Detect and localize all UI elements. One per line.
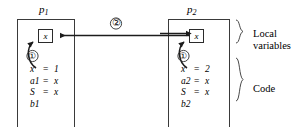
- process-label-p2-subscript: 2: [193, 8, 197, 17]
- code-line-p2-2: S: [181, 87, 191, 99]
- section-label-code-line1: Code: [253, 83, 275, 95]
- step-marker-p2: ①: [179, 52, 187, 61]
- code-ops-p1: = = =: [43, 64, 48, 99]
- code-op-p2-3: =: [194, 87, 199, 99]
- section-label-local-variables: Local variables: [253, 28, 291, 52]
- code-op-p1-1: =: [43, 76, 48, 88]
- section-label-local-variables-line2: variables: [253, 40, 291, 52]
- brace-code: [236, 58, 243, 101]
- code-rhs-p2: 2 x x: [205, 64, 210, 99]
- code-rhs-p1-3: x: [54, 87, 59, 99]
- code-line-p1-1: a1: [30, 76, 40, 88]
- code-op-p1-3: =: [43, 87, 48, 99]
- process-label-p1: p1: [39, 4, 49, 17]
- code-line-p1-2: S: [30, 87, 40, 99]
- x-box-p2-label: x: [195, 32, 199, 41]
- section-label-local-variables-line1: Local: [253, 28, 291, 40]
- x-box-p2: x: [189, 29, 204, 43]
- code-block-p2: x a2 S b2: [181, 64, 191, 110]
- x-box-p1-label: x: [44, 32, 48, 41]
- x-box-p1: x: [38, 29, 53, 43]
- code-line-p1-3: b1: [30, 99, 40, 111]
- code-rhs-p1-1: x: [54, 76, 59, 88]
- code-op-p2-0: =: [194, 64, 199, 76]
- step-marker-transfer: ②: [112, 19, 121, 29]
- code-rhs-p1: 1 x x: [54, 64, 59, 99]
- diagram-canvas: p1 p2 x x ① ① ② x a1 S b1 = = = 1 x x x …: [0, 0, 302, 127]
- process-label-p1-subscript: 1: [45, 8, 49, 17]
- code-rhs-p2-3: x: [205, 87, 210, 99]
- step-marker-p1: ①: [28, 52, 36, 61]
- section-label-code: Code: [253, 83, 275, 95]
- code-rhs-p2-0: 2: [205, 64, 210, 76]
- brace-local-variables: [236, 20, 243, 43]
- code-rhs-p2-1: x: [205, 76, 210, 88]
- code-op-p1-0: =: [43, 64, 48, 76]
- process-label-p2: p2: [187, 4, 197, 17]
- code-line-p2-1: a2: [181, 76, 191, 88]
- code-rhs-p1-0: 1: [54, 64, 59, 76]
- code-line-p2-3: b2: [181, 99, 191, 111]
- code-line-p1-0: x: [30, 64, 40, 76]
- code-block-p1: x a1 S b1: [30, 64, 40, 110]
- code-ops-p2: = = =: [194, 64, 199, 99]
- code-line-p2-0: x: [181, 64, 191, 76]
- code-op-p2-1: =: [194, 76, 199, 88]
